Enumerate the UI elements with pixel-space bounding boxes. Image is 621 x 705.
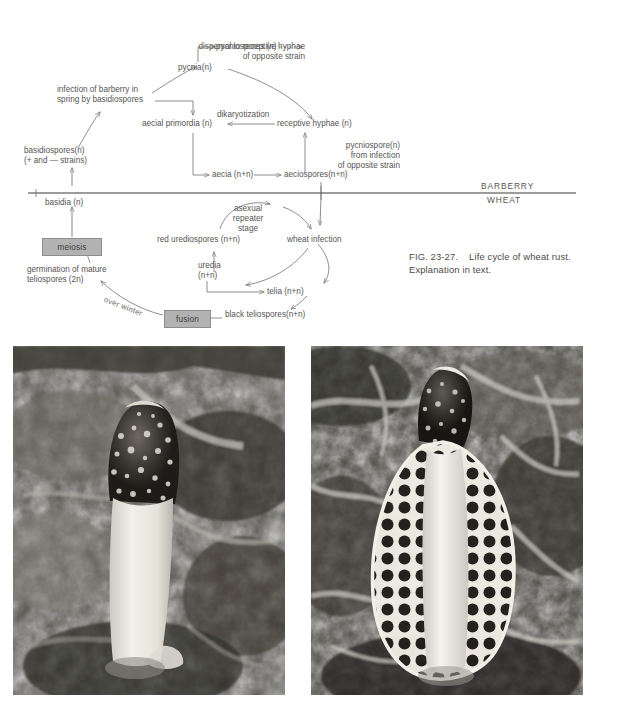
node-fusion: fusion [164, 310, 211, 328]
photo-right-image [311, 346, 583, 695]
node-dikaryotization: dikaryotization [217, 110, 269, 120]
node-aecial-primordia: aecial primordia (n) [142, 119, 212, 129]
life-cycle-diagram: pycniospores (n) dispersal to receptive … [0, 0, 621, 345]
node-dispersal: dispersal to receptive hyphae of opposit… [150, 42, 305, 62]
node-aecia: aecia (n+n) [212, 170, 253, 180]
node-meiosis: meiosis [42, 238, 102, 256]
node-black-teliospores: black teliospores(n+n) [225, 310, 305, 320]
node-pycniospore-opposite-strain: pycniospore(n) from infection of opposit… [310, 141, 400, 171]
photo-left [13, 346, 285, 695]
figure-caption-id: FIG. 23-27. [409, 251, 458, 262]
photo-left-image [13, 346, 285, 695]
node-wheat-infection: wheat infection [287, 235, 342, 245]
node-telia: telia (n+n) [267, 287, 304, 297]
node-basidia: basidia (n) [45, 198, 83, 208]
node-red-urediospores: red urediospores (n+n) [157, 235, 240, 245]
node-basidiospores: basidiospores(n) (+ and — strains) [24, 146, 87, 166]
divider-label-barberry: BARBERRY [481, 181, 534, 191]
node-germination-teliospores: germination of mature teliospores (2n) [27, 265, 107, 285]
node-infection-of-barberry: infection of barberry in spring by basid… [57, 85, 143, 105]
figure-caption: FIG. 23-27. Life cycle of wheat rust. Ex… [409, 250, 599, 276]
node-pycnia: pycnia(n) [178, 63, 212, 73]
divider-label-wheat: WHEAT [487, 195, 521, 205]
photo-right [311, 346, 583, 695]
node-uredia: uredia (n+n) [198, 261, 221, 281]
node-asexual-repeater-stage: asexual repeater stage [218, 204, 278, 234]
node-aeciospores: aeciospores(n+n) [284, 170, 348, 180]
node-receptive-hyphae: receptive hyphae (n) [277, 119, 352, 129]
